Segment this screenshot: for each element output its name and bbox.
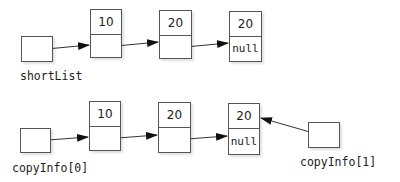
shortlist-pointer-box (21, 36, 53, 62)
node-next (91, 34, 121, 57)
copyinfo0-pointer-box (20, 128, 51, 153)
node-next-null: null (230, 36, 261, 61)
node-next-null: null (229, 128, 259, 154)
copyinfo0-label: copyInfo[0] (12, 161, 88, 175)
list-node: 20 (159, 10, 192, 59)
list-node: 20 (158, 102, 191, 153)
copyinfo1-pointer-box (308, 122, 340, 148)
node-value: 20 (230, 12, 261, 37)
node-value: 10 (90, 102, 120, 127)
list-node: 20 null (228, 103, 260, 155)
node-next (90, 126, 120, 150)
list-node: 10 (90, 9, 122, 58)
linked-list-diagram: shortList 10 20 20 null copyInfo[0] 10 2… (0, 0, 400, 182)
copyinfo1-label: copyInfo[1] (300, 155, 376, 169)
node-next (159, 127, 190, 152)
node-value: 20 (160, 11, 191, 36)
node-value: 20 (229, 104, 259, 129)
list-node: 10 (89, 101, 121, 151)
node-next (160, 35, 191, 58)
node-value: 20 (159, 103, 190, 128)
list-node: 20 null (229, 11, 262, 62)
node-value: 10 (91, 10, 121, 35)
shortlist-label: shortList (20, 69, 82, 83)
